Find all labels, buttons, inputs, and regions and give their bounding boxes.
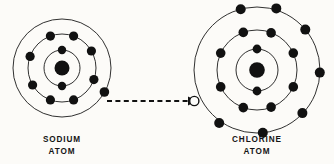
chlorine-electron — [289, 82, 299, 92]
atom-sodium: SODIUM ATOM — [13, 19, 111, 156]
chlorine-electron — [253, 45, 262, 54]
chlorine-electron — [297, 108, 307, 118]
chlorine-electron — [236, 4, 246, 14]
chlorine-electron — [239, 103, 249, 113]
chlorine-electron — [266, 102, 276, 112]
chlorine-open-electron-slot — [190, 96, 199, 105]
sodium-electron — [46, 31, 55, 40]
sodium-nucleus — [55, 61, 70, 76]
sodium-label-line2: ATOM — [49, 147, 76, 156]
chlorine-electron — [289, 48, 299, 58]
sodium-electron — [89, 75, 98, 84]
diagram-canvas: SODIUM ATOM — [0, 0, 334, 164]
chlorine-electron — [266, 28, 276, 38]
sodium-electron — [58, 46, 66, 54]
sodium-electron — [46, 95, 55, 104]
sodium-electron — [58, 82, 66, 90]
sodium-electron — [69, 95, 78, 104]
sodium-electron — [69, 31, 78, 40]
sodium-electron — [87, 46, 96, 55]
atom-chlorine: CHLORINE ATOM — [190, 3, 325, 156]
chlorine-electron — [214, 118, 224, 128]
electron-transfer-arrow — [107, 97, 197, 106]
chlorine-electron — [216, 82, 226, 92]
chlorine-electron — [300, 25, 310, 35]
sodium-electron — [26, 52, 35, 61]
chlorine-electron — [216, 48, 226, 58]
chlorine-label-line1: CHLORINE — [232, 135, 282, 144]
chlorine-electron — [271, 3, 281, 13]
ionic-bond-diagram: SODIUM ATOM — [0, 0, 334, 164]
chlorine-electron — [253, 87, 262, 96]
chlorine-label-line2: ATOM — [244, 147, 271, 156]
chlorine-nucleus — [249, 62, 265, 78]
sodium-electron — [28, 80, 37, 89]
sodium-valence-electron — [100, 87, 110, 97]
chlorine-electron — [315, 68, 325, 78]
chlorine-electron — [239, 28, 249, 38]
sodium-label-line1: SODIUM — [43, 135, 81, 144]
